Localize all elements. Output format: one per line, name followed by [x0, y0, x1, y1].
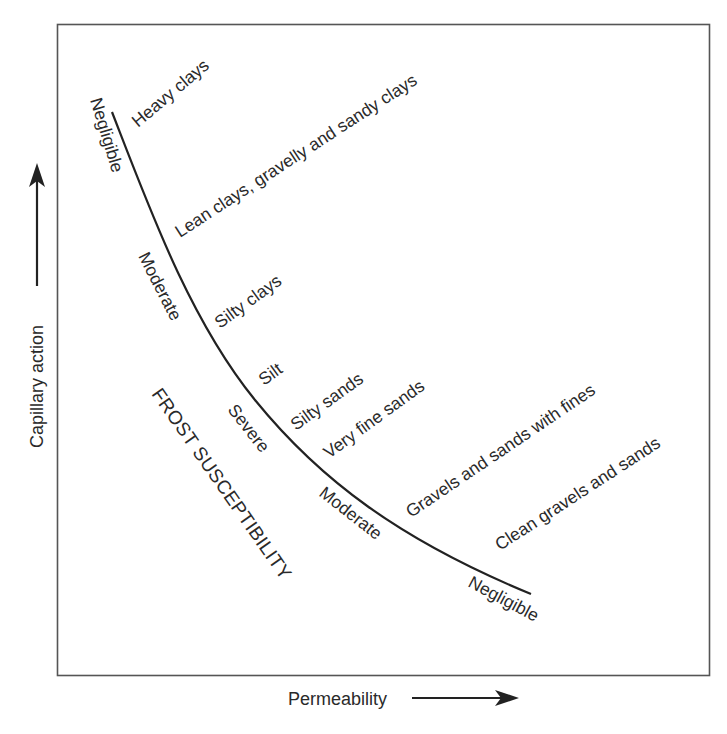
y-axis: Capillary action: [27, 163, 47, 448]
frost-susceptibility-label: FROST SUSCEPTIBILITY: [148, 384, 296, 583]
x-axis-label: Permeability: [288, 689, 387, 709]
frost-susceptibility-diagram: Capillary action Permeability Negligible…: [0, 0, 727, 734]
soil-silt: Silt: [255, 359, 287, 390]
level-negligible-bottom: Negligible: [465, 572, 542, 626]
x-axis: Permeability: [288, 689, 519, 709]
soil-lean-clays: Lean clays, gravelly and sandy clays: [171, 70, 420, 242]
soil-silty-clays: Silty clays: [211, 270, 286, 332]
plot-frame: [58, 25, 710, 676]
y-axis-label: Capillary action: [27, 325, 47, 448]
soil-heavy-clays: Heavy clays: [128, 55, 213, 131]
level-moderate-upper: Moderate: [134, 249, 185, 324]
susceptibility-levels: Negligible Moderate Severe Moderate Negl…: [86, 95, 542, 625]
level-severe: Severe: [224, 400, 274, 456]
frost-curve: [112, 112, 531, 594]
